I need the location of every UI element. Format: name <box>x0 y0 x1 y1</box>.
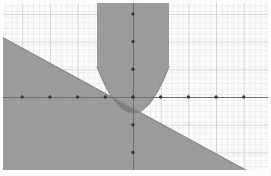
y-tick-dot <box>131 68 134 71</box>
x-tick-dot <box>214 95 217 98</box>
x-tick-dot <box>21 95 24 98</box>
y-tick-dot <box>131 151 134 154</box>
x-tick-dot <box>48 95 51 98</box>
x-tick-dot <box>104 95 107 98</box>
y-tick-dot <box>131 123 134 126</box>
x-tick-dot <box>242 95 245 98</box>
x-tick-dot <box>187 95 190 98</box>
y-tick-dot <box>131 95 134 98</box>
coordinate-plane-chart <box>0 0 271 176</box>
y-tick-dot <box>131 12 134 15</box>
x-tick-dot <box>159 95 162 98</box>
x-tick-dot <box>76 95 79 98</box>
graph-figure <box>0 0 271 176</box>
y-tick-dot <box>131 40 134 43</box>
